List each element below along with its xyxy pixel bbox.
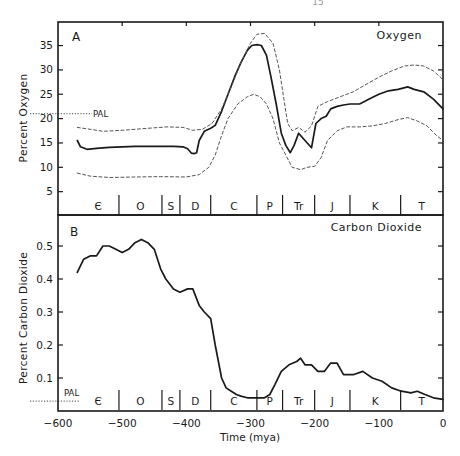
period-label: K: [372, 395, 380, 407]
period-label: Tr: [293, 200, 304, 212]
pal-reference-lines: [30, 114, 92, 401]
data-line: [77, 45, 443, 154]
period-label: T: [418, 395, 426, 407]
tick-labels: 51015202530350.10.20.30.40.5−600−500−400…: [36, 39, 446, 429]
y-tick-label: 0.1: [36, 372, 53, 384]
period-label: J: [330, 395, 334, 407]
y-tick-label: 30: [40, 63, 53, 75]
oxygen-co2-chart: 15 ЄOSDCPTrJKTЄOSDCPTrJKT 51015202530350…: [0, 0, 460, 456]
period-label: S: [168, 395, 175, 407]
y-tick-label: 0.2: [36, 339, 53, 351]
page-number: 15: [312, 0, 323, 7]
period-label: O: [136, 395, 144, 407]
period-label: Є: [94, 395, 101, 407]
period-label: D: [191, 395, 199, 407]
x-tick-label: −200: [300, 417, 329, 429]
period-label: D: [191, 200, 199, 212]
y-tick-label: 35: [40, 39, 53, 51]
period-label: P: [267, 200, 273, 212]
period-label: C: [230, 395, 237, 407]
y-tick-label: 5: [46, 185, 53, 197]
panel-a-frame: [58, 22, 443, 215]
period-label: Tr: [293, 395, 304, 407]
period-label: O: [136, 200, 144, 212]
x-axis-label: Time (mya): [219, 431, 280, 443]
y-tick-label: 10: [40, 161, 53, 173]
x-tick-label: −600: [44, 417, 73, 429]
period-label: S: [168, 200, 175, 212]
y-tick-label: 0.5: [36, 240, 53, 252]
pal-label-b: PAL: [64, 388, 79, 398]
y-tick-label: 0.4: [36, 273, 53, 285]
panel-b-title: Carbon Dioxide: [331, 221, 422, 234]
axis-ticks: [58, 22, 443, 378]
x-tick-label: −400: [172, 417, 201, 429]
panel-a-label: A: [72, 30, 81, 44]
panel-b-frame: [58, 215, 443, 411]
data-series: [77, 33, 443, 399]
y-tick-label: 25: [40, 88, 53, 100]
period-label: J: [330, 200, 334, 212]
confidence-bound-line: [77, 33, 443, 132]
y-tick-label: 20: [40, 112, 53, 124]
x-tick-label: 0: [440, 417, 447, 429]
y-axis-label-b: Percent Carbon Dioxide: [17, 252, 29, 384]
period-label: T: [418, 200, 426, 212]
y-axis-label-a: Percent Oxygen: [17, 74, 29, 163]
x-tick-label: −300: [236, 417, 265, 429]
confidence-bound-line: [77, 94, 443, 177]
pal-label-a: PAL: [93, 109, 108, 119]
period-label: Є: [94, 200, 101, 212]
x-tick-label: −100: [364, 417, 393, 429]
x-tick-label: −500: [108, 417, 137, 429]
data-line: [77, 239, 443, 399]
panel-a-title: Oxygen: [377, 29, 422, 42]
panel-b-label: B: [70, 225, 78, 239]
period-label: K: [372, 200, 380, 212]
y-tick-label: 15: [40, 136, 53, 148]
period-label: C: [230, 200, 237, 212]
y-tick-label: 0.3: [36, 306, 53, 318]
